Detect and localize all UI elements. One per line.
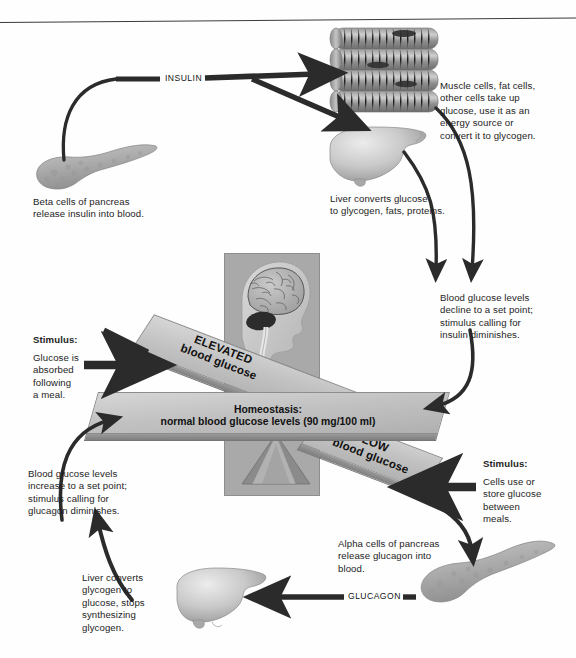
- caption-stimulus-meal-body: Glucose is absorbed following a meal.: [33, 352, 103, 402]
- caption-increase: Blood glucose levels increase to a set p…: [28, 468, 178, 518]
- caption-muscle-cells: Muscle cells, fat cells, other cells tak…: [440, 80, 570, 142]
- liver-top-illustration: [324, 124, 432, 190]
- top-divider-rule: [0, 16, 576, 30]
- caption-liver-bottom: Liver converts glycogen to glucose, stop…: [82, 572, 172, 634]
- arrow-insulin-to-muscle: [205, 74, 316, 78]
- caption-liver-top: Liver converts glucose to glycogen, fats…: [330, 193, 500, 218]
- caption-decline: Blood glucose levels decline to a set po…: [440, 292, 570, 342]
- insulin-label: INSULIN: [163, 73, 204, 83]
- caption-stimulus-between-body: Cells use or store glucose between meals…: [483, 476, 573, 526]
- caption-stimulus-between-heading: Stimulus:: [483, 458, 528, 470]
- caption-alpha-cells: Alpha cells of pancreas release glucagon…: [338, 538, 488, 575]
- beam-homeostasis-label: Homeostasis: normal blood glucose levels…: [118, 404, 418, 428]
- pancreas-top-illustration: [32, 140, 160, 196]
- homeostasis-line2: normal blood glucose levels (90 mg/100 m…: [118, 416, 418, 428]
- figure-canvas: ELEVATED blood glucose LOW blood glucose…: [0, 0, 576, 658]
- caption-stimulus-meal-heading: Stimulus:: [33, 334, 78, 346]
- glucagon-label: GLUCAGON: [346, 591, 403, 601]
- liver-bottom-illustration: [167, 562, 273, 632]
- homeostasis-line1: Homeostasis:: [118, 404, 418, 416]
- caption-beta-cells: Beta cells of pancreas release insulin i…: [33, 196, 193, 221]
- muscle-fibers-illustration: [322, 26, 446, 118]
